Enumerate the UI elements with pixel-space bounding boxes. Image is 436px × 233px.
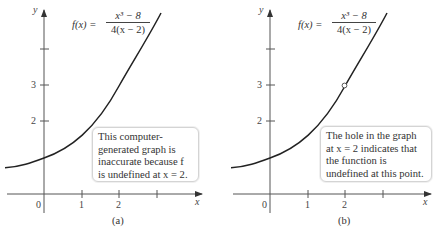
annotation-box: This computer- generated graph is inaccu…: [92, 127, 199, 182]
x-axis-label: x: [195, 196, 199, 207]
formula-lhs: f(x) =: [298, 19, 322, 30]
y-axis-label: y: [259, 4, 263, 15]
fraction-bar: [106, 22, 150, 23]
annotation-text: The hole in the graph at x = 2 indicates…: [326, 130, 426, 180]
panel-a-graph: [5, 10, 202, 213]
formula-lhs: f(x) =: [72, 19, 96, 30]
x-tick-label-1: 1: [305, 199, 310, 210]
y-tick-label-3: 3: [31, 79, 36, 90]
formula-numerator: x³ − 8: [332, 10, 376, 21]
annotation-box: The hole in the graph at x = 2 indicates…: [320, 126, 432, 182]
y-tick-label-3: 3: [257, 79, 262, 90]
function-formula: f(x) =: [298, 19, 322, 30]
y-tick-label-2: 2: [257, 115, 262, 126]
panel-caption: (a): [112, 215, 124, 226]
formula-fraction: x³ − 8 4(x − 2): [106, 10, 150, 35]
panel-b-graph: [231, 10, 431, 213]
y-tick-label-2: 2: [31, 115, 36, 126]
panel-caption: (b): [338, 215, 350, 226]
formula-denominator: 4(x − 2): [332, 24, 376, 35]
x-tick-label-2: 2: [342, 199, 347, 210]
formula-denominator: 4(x − 2): [106, 24, 150, 35]
formula-fraction: x³ − 8 4(x − 2): [332, 10, 376, 35]
hole-marker: [342, 83, 347, 88]
x-tick-label-1: 1: [79, 199, 84, 210]
y-axis-label: y: [33, 4, 37, 15]
formula-numerator: x³ − 8: [106, 10, 150, 21]
x-tick-label-2: 2: [116, 199, 121, 210]
annotation-text: This computer- generated graph is inaccu…: [98, 131, 193, 181]
function-formula: f(x) =: [72, 19, 96, 30]
x-axis-label: x: [423, 196, 427, 207]
x-tick-label-0: 0: [262, 199, 267, 210]
fraction-bar: [332, 22, 376, 23]
x-tick-label-0: 0: [36, 199, 41, 210]
